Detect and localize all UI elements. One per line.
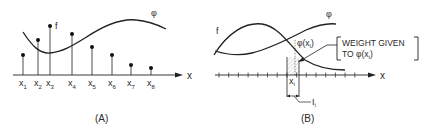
interval-shade (287, 57, 299, 75)
sample-stem: x4 (68, 32, 77, 90)
sample-label: x6 (108, 78, 117, 90)
sample-dot (129, 63, 133, 67)
sample-stem: x7 (127, 63, 136, 90)
f-label-a: f (55, 21, 58, 31)
axis-arrow-icon (368, 73, 376, 78)
phi-curve-a (23, 20, 166, 53)
sample-dot (48, 24, 52, 28)
sample-label: x1 (19, 78, 28, 90)
annotation-line-2: TO φ(xi) (342, 49, 373, 60)
sample-dot (149, 66, 153, 70)
axis-label-b: x (380, 70, 385, 81)
sample-dot (21, 53, 25, 57)
dimension-arrow-right-icon (296, 95, 299, 98)
sample-stem: x6 (108, 53, 117, 90)
f-label-b: f (216, 26, 219, 36)
sample-label: x5 (88, 78, 97, 90)
axis-arrow-icon (175, 73, 183, 78)
sample-dot (70, 32, 74, 36)
sample-stem: x8 (147, 66, 156, 90)
phi-xi-label: φ(xi) (297, 38, 314, 49)
caption-a: (A) (95, 113, 108, 124)
sample-label: x8 (147, 78, 156, 90)
sample-stem: x3 (46, 24, 55, 90)
interval-label: Ii (312, 97, 316, 108)
caption-b: (B) (301, 113, 314, 124)
sample-dot (36, 38, 40, 42)
xi-label: xi (289, 76, 295, 87)
phi-label-a: φ (151, 8, 157, 18)
annotation-line-1: WEIGHT GIVEN (342, 38, 405, 48)
sample-stem: x1 (19, 53, 28, 90)
sample-dot (110, 53, 114, 57)
sample-label: x7 (127, 78, 136, 90)
sample-label: x3 (46, 78, 55, 90)
panel-b: x f φ φ(xi) WEIGHT GIVEN TO φ(xi) xi (214, 9, 418, 124)
dimension-arrow-left-icon (287, 95, 290, 98)
sample-label: x4 (68, 78, 77, 90)
phi-label-b: φ (326, 9, 332, 19)
f-curve-b (214, 24, 345, 70)
sample-dot (90, 45, 94, 49)
axis-label-a: x (187, 70, 192, 81)
sample-stems: x1x2x3x4x5x6x7x8 (19, 24, 156, 90)
panel-a: x φ x1x2x3x4x5x6x7x8 f (A) (13, 8, 192, 124)
sample-stem: x5 (88, 45, 97, 90)
diagram-canvas: x φ x1x2x3x4x5x6x7x8 f (A) x f φ φ(xi) (0, 0, 431, 131)
sample-stem: x2 (34, 38, 43, 90)
sample-label: x2 (34, 78, 43, 90)
